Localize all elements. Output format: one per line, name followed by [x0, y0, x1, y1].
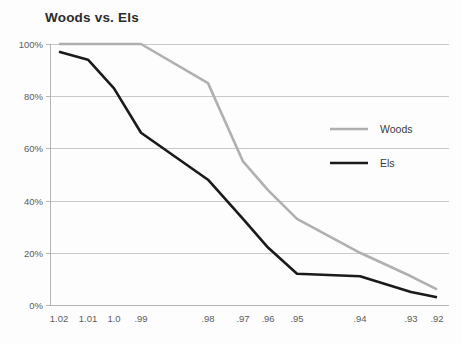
legend-group: WoodsEls	[330, 123, 413, 169]
y-axis-tick-label: 100%	[19, 39, 44, 50]
xtick-labels-group: 1.021.011.0.99.98.97.96.95.94.93.92	[50, 313, 444, 324]
y-axis-tick-label: 40%	[24, 196, 44, 207]
x-axis-tick-label: 1.01	[79, 313, 98, 324]
y-axis-tick-label: 80%	[24, 91, 44, 102]
series-line-els	[59, 52, 437, 297]
x-axis-tick-label: .95	[290, 313, 303, 324]
series-group	[59, 44, 437, 297]
y-axis-tick-label: 0%	[29, 300, 43, 311]
y-axis-tick-label: 60%	[24, 143, 44, 154]
x-axis-tick-label: .94	[353, 313, 366, 324]
legend-label-els: Els	[380, 157, 395, 169]
line-chart-plot: 100%80%60%40%20%0% 1.021.011.0.99.98.97.…	[0, 0, 461, 344]
legend-label-woods: Woods	[380, 123, 413, 135]
chart-container: Woods vs. Els 100%80%60%40%20%0% 1.021.0…	[0, 0, 461, 344]
x-axis-tick-label: 1.02	[50, 313, 69, 324]
ytick-labels-group: 100%80%60%40%20%0%	[19, 39, 44, 311]
x-axis-tick-label: .93	[404, 313, 417, 324]
x-axis-tick-label: 1.0	[107, 313, 120, 324]
x-axis-tick-label: .96	[261, 313, 274, 324]
x-axis-tick-label: .99	[134, 313, 147, 324]
x-axis-tick-label: .97	[236, 313, 249, 324]
y-axis-tick-label: 20%	[24, 248, 44, 259]
x-axis-tick-label: .98	[201, 313, 214, 324]
x-axis-tick-label: .92	[430, 313, 443, 324]
